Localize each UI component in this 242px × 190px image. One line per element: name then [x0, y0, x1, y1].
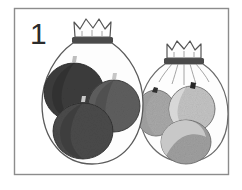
- light-fruit-3: [161, 120, 211, 164]
- light-fruit-2-stem: [190, 82, 196, 89]
- large-bag-tie: [72, 37, 113, 43]
- small-bag-tie: [164, 58, 204, 64]
- figure-panel: Two tied bags of fruit A hand-drawn gray…: [0, 0, 242, 190]
- figure-number-label: 1: [30, 17, 47, 50]
- illustration-canvas: 1: [0, 0, 242, 190]
